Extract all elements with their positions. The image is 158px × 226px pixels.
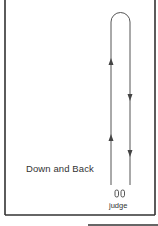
diagram-canvas <box>0 0 158 226</box>
judge-label: judge <box>109 201 127 210</box>
pattern-title: Down and Back <box>26 163 94 174</box>
arrow-up-icon <box>109 134 114 141</box>
arrow-up-icon <box>109 58 114 65</box>
down-and-back-diagram: Down and Back judge <box>0 0 158 226</box>
ring-border <box>5 0 155 215</box>
arrow-down-icon <box>128 94 133 101</box>
gait-path <box>111 13 130 186</box>
arrow-down-icon <box>128 150 133 157</box>
footprints-icon <box>115 190 125 197</box>
